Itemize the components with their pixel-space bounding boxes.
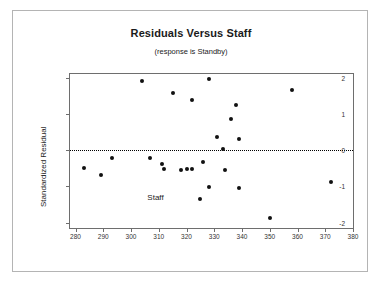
chart-title: Residuals Versus Staff bbox=[13, 27, 369, 39]
y-tick-label: 0 bbox=[341, 147, 345, 154]
x-axis-label: Staff bbox=[13, 193, 298, 202]
y-tick-label: 2 bbox=[341, 74, 345, 81]
x-tick-label: 280 bbox=[70, 233, 81, 240]
chart-figure: Residuals Versus Staff (response is Stan… bbox=[12, 10, 368, 272]
x-tick-mark bbox=[214, 228, 215, 232]
x-tick-label: 310 bbox=[153, 233, 164, 240]
x-tick-label: 380 bbox=[348, 233, 359, 240]
plot-area: 280290300310320330340350360370380 210-1-… bbox=[69, 73, 354, 229]
x-tick-label: 300 bbox=[126, 233, 137, 240]
y-tick-label: -1 bbox=[339, 183, 345, 190]
x-tick-mark bbox=[187, 228, 188, 232]
x-tick-mark bbox=[325, 228, 326, 232]
y-tick-label: 1 bbox=[341, 110, 345, 117]
x-tick-label: 370 bbox=[320, 233, 331, 240]
x-tick-label: 360 bbox=[292, 233, 303, 240]
y-axis-label: Standardized Residual bbox=[39, 127, 48, 208]
x-tick-mark bbox=[131, 228, 132, 232]
x-tick-mark bbox=[103, 228, 104, 232]
x-tick-mark bbox=[270, 228, 271, 232]
y-tick-mark bbox=[66, 78, 70, 79]
y-tick-mark bbox=[66, 186, 70, 187]
x-tick-mark bbox=[76, 228, 77, 232]
chart-subtitle: (response is Standby) bbox=[13, 47, 369, 56]
x-tick-mark bbox=[159, 228, 160, 232]
x-tick-mark bbox=[242, 228, 243, 232]
x-tick-label: 350 bbox=[264, 233, 275, 240]
x-tick-mark bbox=[298, 228, 299, 232]
y-tick-mark bbox=[66, 114, 70, 115]
y-axis-ticks: 210-1-2 bbox=[70, 74, 353, 228]
x-tick-mark bbox=[353, 228, 354, 232]
y-tick-label: -2 bbox=[339, 219, 345, 226]
y-tick-mark bbox=[66, 223, 70, 224]
y-tick-mark bbox=[66, 150, 70, 151]
x-tick-label: 290 bbox=[98, 233, 109, 240]
x-tick-label: 340 bbox=[237, 233, 248, 240]
x-tick-label: 330 bbox=[209, 233, 220, 240]
x-tick-label: 320 bbox=[181, 233, 192, 240]
